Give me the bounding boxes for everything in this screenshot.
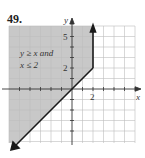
y-tick-2: 2 xyxy=(63,63,68,73)
annotation-line-2: x ≤ 2 xyxy=(19,60,38,70)
y-tick-5: 5 xyxy=(63,32,68,42)
y-axis-label: y xyxy=(63,15,68,25)
x-axis-label: x xyxy=(135,92,140,102)
annotation-line-1: y ≥ x and xyxy=(19,48,54,58)
inequality-graph: y x 5 2 2 y ≥ x and x ≤ 2 xyxy=(0,0,145,158)
x-tick-2: 2 xyxy=(90,92,95,102)
